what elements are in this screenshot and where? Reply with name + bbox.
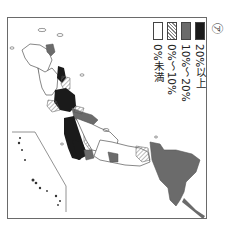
nansei-islands xyxy=(18,137,61,206)
region-hatched-1 xyxy=(61,76,70,90)
region-tohoku-grey xyxy=(108,152,118,162)
legend-swatch-below-0 xyxy=(153,22,163,40)
region-hokkaido-islands xyxy=(182,198,205,219)
legend-label-20-plus: 20%以上 xyxy=(195,44,205,89)
region-hokkaido xyxy=(150,142,200,206)
legend-label-10-20: 10%～20% xyxy=(181,44,191,102)
legend-label-below-0: 0%未満 xyxy=(153,44,163,83)
legend-swatch-10-20 xyxy=(181,22,191,40)
choropleth-map xyxy=(0,0,228,243)
legend-label-0-10: 0%～10% xyxy=(167,44,177,95)
legend-swatch-0-10 xyxy=(167,22,177,40)
region-grey-2 xyxy=(84,150,94,160)
legend-swatch-20-plus xyxy=(195,22,205,40)
inset-border xyxy=(12,132,66,212)
